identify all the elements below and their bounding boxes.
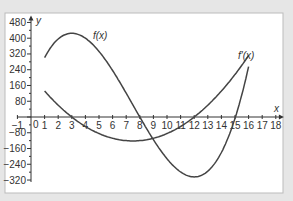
svg-text:10: 10 — [161, 120, 173, 131]
f-label: f(x) — [93, 30, 107, 41]
svg-text:17: 17 — [257, 120, 269, 131]
svg-text:12: 12 — [189, 120, 201, 131]
svg-text:3: 3 — [69, 120, 75, 131]
svg-text:2: 2 — [55, 120, 61, 131]
svg-text:14: 14 — [216, 120, 228, 131]
svg-text:240: 240 — [9, 64, 26, 75]
y-axis-label: y — [35, 15, 42, 26]
svg-text:400: 400 — [9, 33, 26, 44]
svg-text:16: 16 — [243, 120, 255, 131]
fprime-label: f'(x) — [238, 50, 254, 61]
svg-text:−240: −240 — [3, 159, 26, 170]
svg-text:−320: −320 — [3, 175, 26, 186]
svg-text:6: 6 — [110, 120, 116, 131]
x-axis-label: x — [273, 103, 280, 114]
svg-text:1: 1 — [42, 120, 48, 131]
chart: −101234567891011121314151617184804003202… — [0, 0, 293, 201]
svg-text:0: 0 — [33, 119, 39, 130]
svg-text:7: 7 — [123, 120, 129, 131]
svg-text:−160: −160 — [3, 143, 26, 154]
svg-text:18: 18 — [270, 120, 282, 131]
svg-text:5: 5 — [96, 120, 102, 131]
svg-text:480: 480 — [9, 17, 26, 28]
svg-text:320: 320 — [9, 48, 26, 59]
svg-text:13: 13 — [202, 120, 214, 131]
svg-text:9: 9 — [151, 120, 157, 131]
svg-text:80: 80 — [15, 96, 27, 107]
plot-panel — [5, 13, 283, 193]
svg-text:160: 160 — [9, 80, 26, 91]
svg-text:−80: −80 — [9, 127, 26, 138]
